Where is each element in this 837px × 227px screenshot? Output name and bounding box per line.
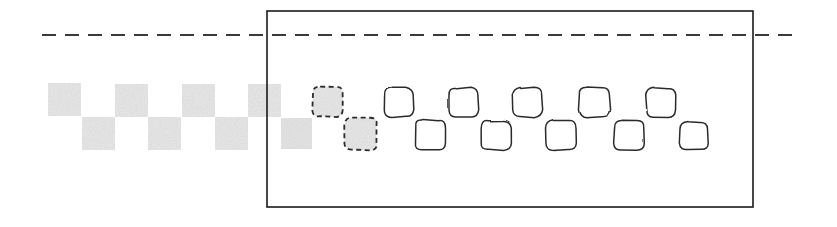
noise-square [82,117,115,150]
noise-square [248,84,281,117]
outline-square [481,121,511,151]
outline-square [384,87,413,117]
noise-square [215,117,248,150]
figure-canvas [0,0,837,227]
noise-square [281,118,312,149]
outline-square [546,120,577,151]
outline-square [646,87,676,117]
dashed-noise-square-fill [344,118,376,151]
outline-square [614,120,645,150]
noise-square [115,84,148,117]
noise-square [182,84,215,117]
noise-square [48,83,81,116]
noise-square [148,117,181,150]
noise-square-group-inside [281,118,312,149]
dashed-noise-square-fill [312,87,342,117]
diagram-svg [0,0,837,227]
outline-square [679,121,708,149]
outline-square [578,87,610,118]
outline-square [449,87,479,117]
outline-square [512,87,542,118]
outline-square [415,119,445,149]
